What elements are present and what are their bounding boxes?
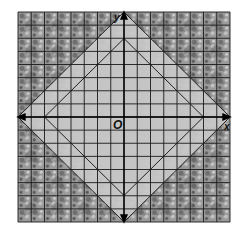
coordinate-diagram: y x O (0, 0, 246, 232)
x-axis-label: x (223, 121, 230, 132)
origin-label: O (113, 118, 123, 132)
y-axis-label: y (113, 12, 120, 23)
